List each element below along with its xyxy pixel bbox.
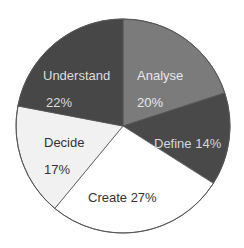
pie-chart: Analyse 20% Define 14% Create 27% Decide… [0, 0, 244, 248]
slice-label-decide: Decide [44, 135, 84, 150]
slice-label-define: Define 14% [154, 136, 222, 151]
slice-pct-analyse: 20% [137, 95, 163, 110]
slice-label-understand: Understand [43, 68, 110, 83]
slice-label-analyse: Analyse [137, 68, 183, 83]
slice-pct-decide: 17% [44, 162, 70, 177]
slice-pct-understand: 22% [46, 95, 72, 110]
slice-label-create: Create 27% [88, 190, 157, 205]
